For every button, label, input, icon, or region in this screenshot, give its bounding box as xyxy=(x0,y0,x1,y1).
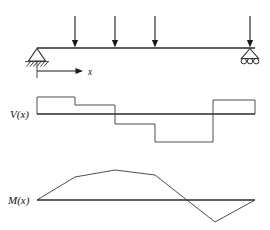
moment-curve xyxy=(37,170,255,222)
x-axis-arrow xyxy=(37,62,83,78)
shear-step-curve xyxy=(37,97,255,142)
point-load-arrow-1 xyxy=(72,16,78,48)
beam-loading-diagram: x xyxy=(25,16,259,78)
moment-diagram-label: M(x) xyxy=(7,194,30,207)
beam-shear-moment-figure: x V(x) M(x) xyxy=(0,0,270,230)
point-load-arrow-2 xyxy=(112,16,118,48)
shear-force-diagram xyxy=(37,97,255,142)
point-load-arrow-3 xyxy=(152,16,158,48)
x-axis-label: x xyxy=(87,67,93,77)
point-load-arrow-4 xyxy=(247,16,253,48)
shear-diagram-label: V(x) xyxy=(10,108,29,121)
roller-support xyxy=(241,49,259,64)
bending-moment-diagram xyxy=(37,170,255,222)
